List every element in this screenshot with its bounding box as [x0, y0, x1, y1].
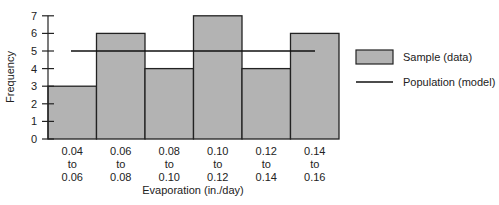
x-tick-label: to	[262, 158, 271, 170]
histogram-chart: 01234567 0.04to0.060.06to0.080.08to0.100…	[0, 0, 499, 205]
bar	[97, 33, 146, 139]
x-tick-label: 0.10	[159, 171, 180, 183]
legend-population-label: Population (model)	[403, 76, 495, 88]
x-axis-label: Evaporation (in./day)	[142, 184, 244, 196]
y-tick-label: 4	[31, 63, 37, 75]
x-tick-label: 0.12	[256, 145, 277, 157]
x-tick-label: 0.16	[304, 171, 325, 183]
bar	[291, 33, 340, 139]
bar	[194, 16, 243, 139]
x-tick-label: 0.08	[110, 171, 131, 183]
y-tick-label: 1	[31, 115, 37, 127]
x-tick-label: to	[165, 158, 174, 170]
x-tick-label: 0.04	[62, 145, 83, 157]
sample-bars	[48, 16, 339, 139]
x-tick-label: to	[68, 158, 77, 170]
y-tick-label: 3	[31, 80, 37, 92]
bar	[48, 86, 97, 139]
x-tick-label: 0.10	[207, 145, 228, 157]
y-tick-label: 2	[31, 98, 37, 110]
x-tick-label: to	[116, 158, 125, 170]
legend: Sample (data) Population (model)	[356, 50, 495, 88]
y-tick-label: 0	[31, 133, 37, 145]
x-tick-label: to	[310, 158, 319, 170]
bar	[145, 69, 194, 139]
y-tick-label: 6	[31, 27, 37, 39]
x-tick-labels: 0.04to0.060.06to0.080.08to0.100.10to0.12…	[62, 145, 326, 183]
legend-sample-label: Sample (data)	[403, 51, 472, 63]
x-tick-label: 0.06	[62, 171, 83, 183]
legend-sample-swatch	[356, 50, 393, 64]
x-tick-label: 0.12	[207, 171, 228, 183]
x-tick-label: 0.14	[256, 171, 277, 183]
x-tick-label: 0.14	[304, 145, 325, 157]
x-tick-label: to	[213, 158, 222, 170]
bar	[242, 69, 291, 139]
y-tick-label: 7	[31, 10, 37, 22]
y-tick-label: 5	[31, 45, 37, 57]
x-tick-label: 0.06	[110, 145, 131, 157]
y-axis-label: Frequency	[4, 51, 16, 103]
x-tick-label: 0.08	[159, 145, 180, 157]
